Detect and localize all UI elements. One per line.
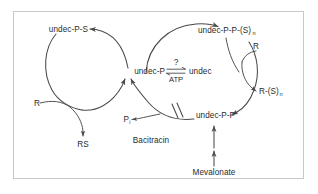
- label-question-mark: ?: [174, 57, 179, 67]
- label-r-sn-main: R-(S): [259, 87, 279, 96]
- diagram-canvas: undec-P-S undec-P undec ? ATP undec-P-P-…: [0, 0, 318, 194]
- pathway-diagram: undec-P-S undec-P undec ? ATP undec-P-P-…: [0, 0, 318, 194]
- label-r-right: R: [253, 42, 259, 51]
- label-undec-pp: undec-P-P: [196, 111, 236, 120]
- label-rs: RS: [77, 140, 89, 149]
- label-r-sn-sub: n: [280, 91, 283, 97]
- label-undec-pp-sn-sub: n: [253, 30, 256, 36]
- label-undec-p-s: undec-P-S: [49, 25, 89, 34]
- label-atp: ATP: [169, 75, 183, 84]
- label-undec: undec: [189, 67, 212, 76]
- label-pi-sub: i: [129, 119, 130, 125]
- label-undec-pp-sn-main: undec-P-P-(S): [198, 26, 251, 35]
- label-r-left: R: [34, 99, 40, 108]
- label-bacitracin: Bacitracin: [133, 136, 170, 145]
- label-undec-pp-sn: undec-P-P-(S) n: [198, 26, 256, 36]
- label-mevalonate: Mevalonate: [193, 168, 236, 177]
- label-undec-p: undec-P: [134, 67, 165, 76]
